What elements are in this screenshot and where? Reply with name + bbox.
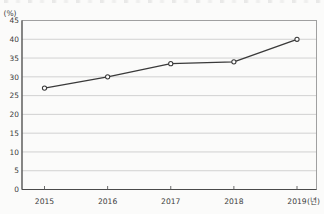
y-tick-label: 30 — [10, 73, 20, 82]
y-tick-label: 15 — [10, 129, 20, 138]
y-tick-label: 20 — [10, 110, 20, 119]
y-tick-label: 5 — [14, 166, 19, 175]
data-point — [232, 60, 236, 64]
data-point — [169, 62, 173, 66]
data-point — [295, 37, 299, 41]
line-chart-figure: 05101520253035404520152016201720182019 (… — [0, 0, 324, 214]
chart-canvas: 05101520253035404520152016201720182019 (… — [0, 0, 324, 214]
cropped-text-artifact — [4, 0, 322, 3]
data-point — [42, 86, 46, 90]
x-tick-label: 2016 — [98, 197, 117, 206]
chart-plot-area: 05101520253035404520152016201720182019 — [10, 16, 317, 205]
y-tick-label: 0 — [14, 185, 19, 194]
y-tick-label: 10 — [10, 148, 20, 157]
y-tick-label: 25 — [10, 91, 20, 100]
y-tick-label: 35 — [10, 54, 20, 63]
x-tick-label: 2019 — [287, 197, 306, 206]
y-tick-label: 40 — [10, 35, 20, 44]
plot-border — [22, 21, 317, 190]
x-tick-label: 2017 — [161, 197, 180, 206]
x-tick-label: 2018 — [224, 197, 243, 206]
y-axis-unit-label: (%) — [3, 9, 16, 18]
x-tick-label: 2015 — [35, 197, 54, 206]
x-axis-unit-label: (년) — [307, 196, 320, 206]
data-point — [106, 75, 110, 79]
